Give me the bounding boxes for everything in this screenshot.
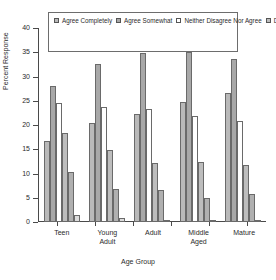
x-axis-category-label-line: Aged — [176, 237, 222, 246]
x-axis-category-label: Teen — [39, 228, 85, 246]
y-axis-tick-label: 10 — [22, 169, 30, 178]
bar-group — [89, 28, 125, 222]
legend-item[interactable]: Agree Completely — [54, 15, 112, 26]
y-axis-tick: 30 — [33, 77, 38, 78]
legend-item-label: Neither Disagree Nor Agree — [184, 15, 261, 26]
y-axis-tick-label: 35 — [22, 47, 30, 56]
legend-item[interactable]: Neither Disagree Nor Agree — [176, 15, 261, 26]
x-axis-tick — [171, 222, 172, 226]
x-axis-category-label-line: Adult — [85, 237, 131, 246]
x-axis-category-label-line: Middle — [176, 228, 222, 237]
x-axis-category-label: Mature — [221, 228, 267, 246]
x-axis-tick — [209, 222, 210, 226]
y-axis-tick-label: 40 — [22, 23, 30, 32]
bar — [249, 194, 255, 222]
x-axis-tick — [95, 222, 96, 226]
legend-swatch-icon — [266, 18, 271, 23]
bar-groups — [39, 28, 266, 222]
legend-item-label: Disagree Somewhat — [274, 15, 276, 26]
legend-item[interactable]: Agree Somewhat — [116, 15, 172, 26]
y-axis-tick: 40 — [33, 28, 38, 29]
y-axis-tick-label: 15 — [22, 144, 30, 153]
x-axis-category-label: MiddleAged — [176, 228, 222, 246]
y-axis-title: Percent Response — [2, 32, 9, 90]
y-axis-tick: 5 — [33, 198, 38, 199]
y-axis-tick-label: 0 — [26, 217, 30, 226]
bar-group — [180, 28, 216, 222]
x-axis-category-labels: TeenYoungAdultAdultMiddleAgedMature — [39, 228, 267, 246]
x-axis-category-label-line: Adult — [130, 228, 176, 237]
y-axis-tick-label: 20 — [22, 120, 30, 129]
bar-group — [225, 28, 261, 222]
bar-chart: Agree CompletelyAgree SomewhatNeither Di… — [0, 0, 276, 280]
plot-area: 0510152025303540 — [38, 28, 266, 222]
x-axis-category-label: YoungAdult — [85, 228, 131, 246]
legend-item-label: Agree Somewhat — [124, 15, 172, 26]
y-axis-tick-label: 25 — [22, 96, 30, 105]
bar — [74, 215, 80, 222]
x-axis-category-label: Adult — [130, 228, 176, 246]
legend-item-label: Agree Completely — [62, 15, 112, 26]
x-axis-category-label-line: Mature — [221, 228, 267, 237]
x-axis-tick — [133, 222, 134, 226]
bar — [158, 190, 164, 222]
bar — [204, 198, 210, 222]
y-axis-tick: 35 — [33, 52, 38, 53]
x-axis-title: Age Group — [0, 258, 276, 265]
y-axis-tick: 15 — [33, 149, 38, 150]
y-axis-tick: 10 — [33, 174, 38, 175]
bar-group — [44, 28, 80, 222]
x-axis-category-label-line: Teen — [39, 228, 85, 237]
x-axis-category-label-line: Young — [85, 228, 131, 237]
legend-swatch-icon — [116, 18, 121, 23]
y-axis-tick: 0 — [33, 222, 38, 223]
legend-item[interactable]: Disagree Somewhat — [266, 15, 276, 26]
x-axis-tick — [247, 222, 248, 226]
bar-group — [134, 28, 170, 222]
x-axis-tick — [57, 222, 58, 226]
y-axis-tick-label: 5 — [26, 193, 30, 202]
y-axis-tick: 20 — [33, 125, 38, 126]
legend-swatch-icon — [176, 18, 181, 23]
legend-swatch-icon — [54, 18, 59, 23]
x-axis-ticks — [39, 222, 266, 226]
y-axis-tick-label: 30 — [22, 72, 30, 81]
y-axis-tick: 25 — [33, 101, 38, 102]
